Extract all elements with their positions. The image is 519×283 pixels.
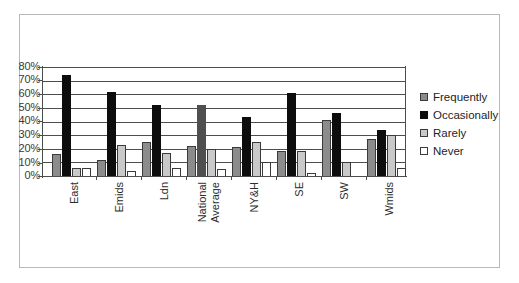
x-axis-label-national-average-line2: Average: [209, 182, 221, 223]
legend-swatch-occasionally-icon: [420, 111, 428, 119]
legend-swatch-rarely-icon: [420, 129, 428, 137]
bar-wmids-frequently[interactable]: [367, 139, 376, 176]
bar-national-average-never[interactable]: [217, 169, 226, 176]
bar-emids-rarely[interactable]: [117, 145, 126, 176]
x-axis-label-emids: Emids: [113, 182, 125, 213]
legend-item-frequently[interactable]: Frequently: [420, 88, 512, 105]
x-axis-tick: [366, 176, 367, 180]
bar-ldn-frequently[interactable]: [142, 142, 151, 176]
bar-ldn-occasionally[interactable]: [152, 105, 161, 176]
x-axis-label-nyh: NY&H: [248, 182, 260, 213]
bar-wmids-rarely[interactable]: [387, 135, 396, 176]
y-tick-label-0: 0%: [6, 170, 40, 181]
plot-area: [43, 67, 406, 176]
legend-label-never: Never: [433, 145, 464, 157]
bar-national-average-rarely[interactable]: [207, 149, 216, 176]
y-tick-label-80: 80%: [6, 61, 40, 72]
bar-group-nyh: [231, 67, 273, 176]
y-axis-tick-labels: 80% 70% 60% 50% 40% 30% 20% 10% 0%: [2, 0, 40, 283]
x-axis-tick: [96, 176, 97, 180]
x-axis-label-se: SE: [293, 182, 305, 197]
bar-east-frequently[interactable]: [52, 154, 61, 176]
x-axis-label-east: East: [68, 182, 80, 204]
legend-swatch-frequently-icon: [420, 93, 428, 101]
bar-ldn-rarely[interactable]: [162, 153, 171, 176]
legend-swatch-never-icon: [420, 147, 428, 155]
x-axis-label-national-average-line1: National: [196, 182, 208, 222]
x-axis-tick: [276, 176, 277, 180]
bar-nyh-rarely[interactable]: [252, 142, 261, 176]
bar-group-emids: [96, 67, 138, 176]
legend-label-occasionally: Occasionally: [433, 109, 498, 121]
bar-ldn-never[interactable]: [172, 168, 181, 176]
legend-item-rarely[interactable]: Rarely: [420, 124, 512, 141]
bar-national-average-frequently[interactable]: [187, 146, 196, 176]
y-tick-label-10: 10%: [6, 157, 40, 168]
bar-nyh-occasionally[interactable]: [242, 117, 251, 176]
x-axis-label-sw: SW: [338, 182, 350, 200]
bar-east-rarely[interactable]: [72, 168, 81, 176]
bar-emids-frequently[interactable]: [97, 160, 106, 176]
bar-wmids-never[interactable]: [397, 168, 406, 176]
bar-wmids-occasionally[interactable]: [377, 130, 386, 176]
legend-label-rarely: Rarely: [433, 127, 466, 139]
legend-label-frequently: Frequently: [433, 91, 487, 103]
y-tick-label-40: 40%: [6, 115, 40, 126]
bar-east-occasionally[interactable]: [62, 75, 71, 176]
bar-nyh-frequently[interactable]: [232, 147, 241, 176]
bar-east-never[interactable]: [82, 168, 91, 176]
bar-se-rarely[interactable]: [297, 151, 306, 176]
bar-sw-rarely[interactable]: [342, 162, 351, 176]
bar-group-national-average: [186, 67, 228, 176]
bar-emids-occasionally[interactable]: [107, 92, 116, 176]
legend-item-occasionally[interactable]: Occasionally: [420, 106, 512, 123]
chart-legend: Frequently Occasionally Rarely Never: [420, 88, 512, 160]
bar-sw-occasionally[interactable]: [332, 113, 341, 176]
y-tick-label-20: 20%: [6, 143, 40, 154]
legend-item-never[interactable]: Never: [420, 142, 512, 159]
bar-group-east: [51, 67, 93, 176]
x-axis-tick: [231, 176, 232, 180]
bar-national-average-occasionally[interactable]: [197, 105, 206, 176]
bar-group-se: [276, 67, 318, 176]
y-tick-label-70: 70%: [6, 74, 40, 85]
x-axis-tick: [186, 176, 187, 180]
x-axis-tick: [141, 176, 142, 180]
bar-sw-frequently[interactable]: [322, 120, 331, 176]
bar-emids-never[interactable]: [127, 171, 136, 176]
bar-se-never[interactable]: [307, 173, 316, 176]
x-axis-label-wmids: Wmids: [383, 182, 395, 216]
bar-se-frequently[interactable]: [277, 151, 286, 176]
y-tick-label-60: 60%: [6, 88, 40, 99]
bar-nyh-never[interactable]: [262, 162, 271, 176]
bar-se-occasionally[interactable]: [287, 93, 296, 176]
bar-group-sw: [321, 67, 363, 176]
y-tick-label-30: 30%: [6, 129, 40, 140]
bar-group-ldn: [141, 67, 183, 176]
x-axis-label-ldn: Ldn: [158, 182, 170, 200]
y-tick-label-50: 50%: [6, 102, 40, 113]
x-axis-tick: [321, 176, 322, 180]
bar-group-wmids: [366, 67, 408, 176]
